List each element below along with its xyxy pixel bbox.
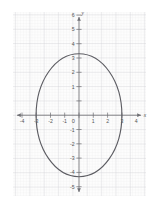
y-tick-label: -2 [70, 141, 75, 147]
x-tick-label: 1 [92, 118, 95, 124]
y-tick-label: -3 [70, 155, 75, 161]
x-tick-label: -1 [62, 118, 67, 124]
y-tick-label: 3 [72, 55, 75, 61]
y-tick-label: 5 [72, 26, 75, 32]
y-tick-label: 1 [72, 84, 75, 90]
y-tick-label: -5 [70, 184, 75, 190]
x-tick-label: 2 [106, 118, 109, 124]
y-tick-label: -1 [70, 127, 75, 133]
y-tick-label: 4 [72, 41, 75, 47]
y-axis-label: y [80, 10, 84, 16]
x-tick-label: 4 [135, 118, 138, 124]
y-tick-label: 6 [72, 12, 75, 18]
x-axis-label: x [143, 112, 147, 118]
graph-figure: -4 -3 -2 -1 1 2 3 4 6 5 4 3 2 1 -1 -2 -3… [0, 0, 158, 205]
x-tick-label: -4 [20, 118, 25, 124]
origin-label: 0 [72, 118, 75, 124]
coordinate-plane-plot: -4 -3 -2 -1 1 2 3 4 6 5 4 3 2 1 -1 -2 -3… [0, 0, 158, 205]
x-tick-label: -2 [48, 118, 53, 124]
y-tick-label: -4 [70, 169, 75, 175]
y-tick-label: 2 [72, 69, 75, 75]
major-gridlines [13, 12, 146, 196]
